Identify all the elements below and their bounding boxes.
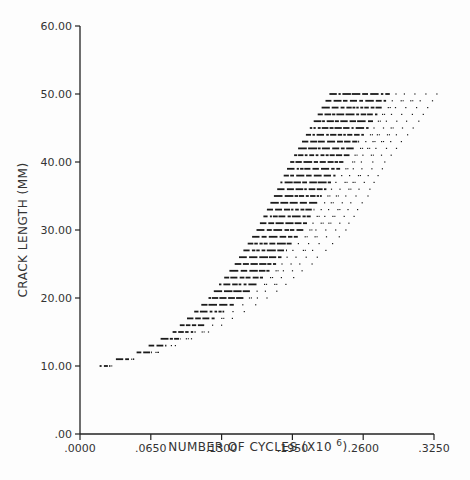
data-point <box>221 325 222 326</box>
data-point <box>335 229 336 230</box>
y-axis-title: CRACK LENGTH (MM) <box>16 162 30 297</box>
x-tick-label: .0000 <box>64 442 96 455</box>
data-point <box>412 100 413 101</box>
data-point <box>321 223 322 224</box>
data-point <box>377 134 378 135</box>
data-point <box>255 304 256 305</box>
data-point <box>266 297 267 298</box>
data-point <box>390 107 391 108</box>
x-tick-label: .0650 <box>135 442 167 455</box>
data-point <box>350 189 351 190</box>
data-point <box>342 202 343 203</box>
data-point <box>276 291 277 292</box>
data-point <box>380 121 381 122</box>
data-point <box>272 277 273 278</box>
data-point <box>378 175 379 176</box>
data-point <box>410 100 411 101</box>
data-point <box>332 216 333 217</box>
data-point <box>391 155 392 156</box>
data-point <box>204 331 205 332</box>
data-point <box>382 114 383 115</box>
data-point <box>352 161 353 162</box>
data-point <box>328 209 329 210</box>
data-point <box>202 331 203 332</box>
data-point <box>158 352 159 353</box>
data-point <box>311 229 312 230</box>
data-point <box>325 250 326 251</box>
data-point <box>354 161 355 162</box>
data-point <box>305 250 306 251</box>
data-point <box>381 155 382 156</box>
data-point <box>432 100 433 101</box>
data-point <box>324 202 325 203</box>
data-point <box>368 175 369 176</box>
data-point <box>283 270 284 271</box>
data-point <box>186 338 187 339</box>
data-point <box>362 202 363 203</box>
data-point <box>329 195 330 196</box>
y-tick-label: 50.00 <box>41 88 73 101</box>
data-point <box>396 148 397 149</box>
data-point <box>357 155 358 156</box>
data-point <box>387 134 388 135</box>
data-point <box>339 236 340 237</box>
data-point <box>302 270 303 271</box>
data-point <box>249 297 250 298</box>
y-tick-label: 10.00 <box>41 360 73 373</box>
data-point <box>379 134 380 135</box>
data-point <box>396 134 397 135</box>
data-point <box>270 277 271 278</box>
data-point <box>339 189 340 190</box>
data-point <box>232 311 233 312</box>
data-point <box>344 216 345 217</box>
data-point <box>353 182 354 183</box>
data-point <box>427 107 428 108</box>
data-point <box>307 236 308 237</box>
data-point <box>345 229 346 230</box>
data-point <box>370 134 371 135</box>
data-point <box>133 359 134 360</box>
data-point <box>391 127 392 128</box>
data-point <box>355 182 356 183</box>
data-point <box>244 311 245 312</box>
data-point <box>312 250 313 251</box>
data-point <box>303 250 304 251</box>
data-point <box>319 216 320 217</box>
x-tick-label: .3250 <box>418 442 450 455</box>
data-point <box>339 209 340 210</box>
data-point <box>361 161 362 162</box>
data-point <box>305 236 306 237</box>
data-point <box>345 182 346 183</box>
data-point <box>423 114 424 115</box>
data-point <box>334 216 335 217</box>
data-point <box>257 297 258 298</box>
data-point <box>155 352 156 353</box>
data-point <box>367 148 368 149</box>
data-point <box>405 107 406 108</box>
data-point <box>383 127 384 128</box>
data-point <box>274 284 275 285</box>
data-point <box>276 270 277 271</box>
data-point <box>355 155 356 156</box>
data-point <box>373 127 374 128</box>
data-point <box>404 93 405 94</box>
data-point <box>325 229 326 230</box>
data-point <box>175 345 176 346</box>
data-point <box>221 318 222 319</box>
x-tick-label: .2600 <box>347 442 379 455</box>
data-point <box>319 243 320 244</box>
data-point <box>287 257 288 258</box>
data-point <box>291 263 292 264</box>
data-point <box>362 155 363 156</box>
data-point <box>321 209 322 210</box>
data-point <box>292 270 293 271</box>
data-point <box>327 195 328 196</box>
data-point <box>330 223 331 224</box>
data-point <box>395 93 396 94</box>
data-point <box>109 365 110 366</box>
data-point <box>391 114 392 115</box>
data-point <box>389 134 390 135</box>
data-point <box>208 331 209 332</box>
data-point <box>369 148 370 149</box>
data-point <box>309 229 310 230</box>
